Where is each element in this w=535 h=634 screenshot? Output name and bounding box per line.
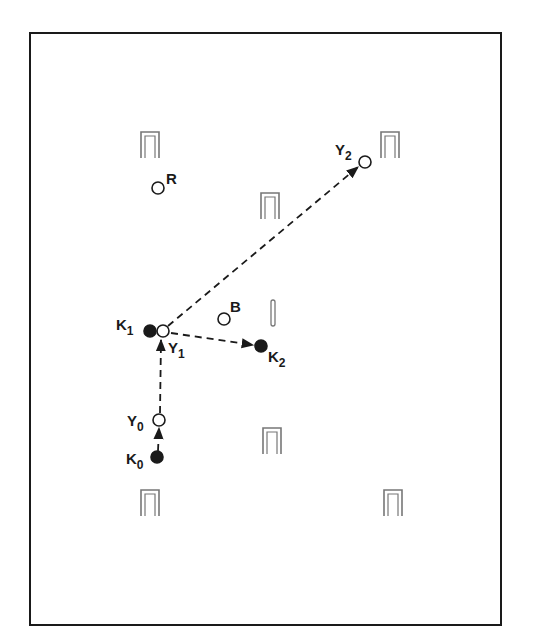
wicket-icon [381, 132, 399, 158]
court-boundary [30, 33, 501, 625]
croquet-diagram: RBY0Y1Y2K0K1K2 [0, 0, 535, 634]
label-K1: K1 [116, 316, 134, 338]
wicket-icon [141, 132, 159, 158]
wicket-icon [263, 428, 281, 454]
wicket-icon [384, 490, 402, 516]
shot-arrow-Y1-to-K2 [171, 333, 253, 345]
ball-K0 [151, 451, 163, 463]
label-R: R [166, 170, 177, 187]
ball-B [218, 313, 230, 325]
ball-Y1 [157, 325, 169, 337]
shot-arrow-K0-to-Y0 [158, 428, 159, 451]
shot-paths [158, 167, 358, 451]
label-B: B [230, 298, 241, 315]
balls [144, 156, 371, 463]
shot-arrow-Y0-to-Y1 [160, 340, 161, 413]
label-K0: K0 [126, 450, 144, 472]
shot-arrow-Y1-to-Y2 [168, 167, 358, 326]
ball-K2 [255, 340, 267, 352]
wicket-icon [261, 193, 279, 219]
ball-Y0 [153, 414, 165, 426]
ball-Y2 [359, 156, 371, 168]
stake-icon [271, 300, 275, 326]
label-K2: K2 [268, 348, 286, 370]
center-stake [271, 300, 275, 326]
label-Y2: Y2 [335, 141, 352, 163]
ball-K1 [144, 325, 156, 337]
label-Y0: Y0 [127, 412, 144, 434]
wicket-icon [141, 490, 159, 516]
ball-labels: RBY0Y1Y2K0K1K2 [116, 141, 352, 472]
ball-R [152, 182, 164, 194]
label-Y1: Y1 [168, 339, 185, 361]
court-border [30, 33, 501, 625]
